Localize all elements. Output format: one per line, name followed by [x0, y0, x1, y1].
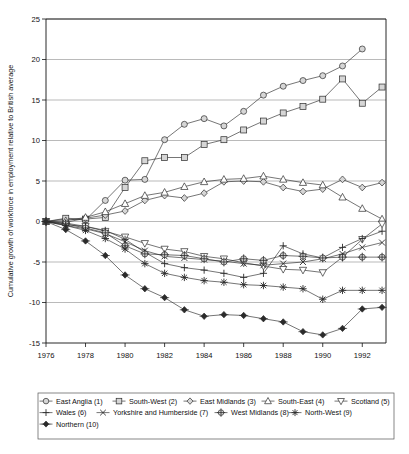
- x-tick-label-1984: 1984: [196, 351, 213, 360]
- data-point-marker: [181, 195, 187, 202]
- data-point-marker: [359, 205, 366, 212]
- x-tick-label-1992: 1992: [354, 351, 371, 360]
- data-point-marker: [181, 155, 187, 161]
- data-point-marker: [260, 118, 266, 124]
- data-point-marker: [162, 137, 168, 143]
- data-point-marker: [102, 208, 109, 215]
- data-point-marker: [280, 184, 286, 191]
- data-point-marker: [201, 190, 207, 197]
- y-axis-label: Cumulative growth of workforce in employ…: [6, 65, 15, 298]
- data-point-marker: [241, 127, 247, 133]
- series-path: [46, 222, 382, 278]
- line-chart: Cumulative growth of workforce in employ…: [0, 0, 409, 454]
- data-point-marker: [181, 121, 187, 127]
- data-point-marker: [221, 137, 227, 143]
- data-point-marker: [260, 178, 266, 185]
- y-tick-label--10: -10: [29, 298, 40, 307]
- legend-item-label: Northern (10): [56, 420, 99, 429]
- series-path: [46, 179, 382, 222]
- legend-item-7[interactable]: Yorkshire and Humberside (7): [97, 408, 209, 417]
- legend-item-label: South-West (2): [129, 397, 177, 406]
- x-tick-label-1980: 1980: [117, 351, 134, 360]
- data-point-marker: [379, 179, 385, 186]
- data-point-marker: [142, 176, 148, 182]
- legend-item-label: Scotland (5): [351, 397, 390, 406]
- legend-item-8[interactable]: West Midlands (8): [215, 408, 289, 417]
- legend-marker-icon: [43, 398, 49, 404]
- y-tick-label-20: 20: [32, 55, 40, 64]
- legend-item-label: Yorkshire and Humberside (7): [113, 408, 208, 417]
- legend-marker-icon: [265, 398, 272, 404]
- series-path: [46, 222, 382, 273]
- data-point-marker: [260, 172, 267, 179]
- data-point-marker: [300, 188, 306, 195]
- x-tick-label-1982: 1982: [156, 351, 173, 360]
- gridlines: [46, 19, 386, 303]
- data-point-marker: [241, 108, 247, 114]
- series-4: [42, 172, 385, 224]
- data-point-marker: [121, 200, 128, 207]
- legend-item-6[interactable]: Wales (6): [40, 408, 87, 417]
- x-tick-label-1986: 1986: [235, 351, 252, 360]
- legend-item-2[interactable]: South-West (2): [113, 397, 178, 406]
- data-point-marker: [280, 110, 286, 116]
- data-point-marker: [340, 76, 346, 82]
- series-path: [46, 176, 382, 221]
- legend: East Anglia (1)South-West (2)East Midlan…: [38, 393, 394, 439]
- data-point-marker: [379, 84, 385, 90]
- data-point-marker: [142, 158, 148, 164]
- y-tick-label--5: -5: [33, 258, 40, 267]
- data-point-marker: [201, 116, 207, 122]
- data-point-marker: [201, 142, 207, 148]
- legend-item-label: North-West (9): [305, 408, 352, 417]
- series-path: [46, 222, 382, 263]
- data-point-marker: [220, 176, 227, 183]
- series-path: [46, 222, 382, 266]
- data-point-marker: [339, 193, 346, 200]
- legend-item-10[interactable]: Northern (10): [40, 420, 99, 429]
- y-tick-label-5: 5: [36, 177, 40, 186]
- series-2: [43, 76, 385, 225]
- data-point-marker: [319, 270, 326, 277]
- legend-item-3[interactable]: East Midlands (3): [184, 397, 256, 406]
- data-point-marker: [122, 184, 128, 190]
- data-point-marker: [102, 197, 108, 203]
- series-path: [46, 222, 382, 335]
- series-lines: [41, 46, 386, 338]
- data-point-marker: [122, 208, 128, 215]
- y-tick-label-10: 10: [32, 136, 40, 145]
- legend-item-label: South-East (4): [278, 397, 324, 406]
- legend-item-1[interactable]: East Anglia (1): [40, 397, 103, 406]
- series-path: [46, 79, 382, 222]
- series-5: [42, 219, 385, 277]
- x-tick-label-1988: 1988: [275, 351, 292, 360]
- data-point-marker: [359, 100, 365, 106]
- legend-item-label: East Anglia (1): [56, 397, 103, 406]
- legend-item-4[interactable]: South-East (4): [262, 397, 325, 406]
- series-10: [41, 218, 386, 338]
- data-point-marker: [320, 73, 326, 79]
- data-point-marker: [359, 184, 365, 191]
- y-tick-label--15: -15: [29, 339, 40, 348]
- data-point-marker: [280, 83, 286, 89]
- legend-marker-icon: [338, 399, 345, 405]
- y-tick-label-25: 25: [32, 15, 40, 24]
- axes: [42, 19, 386, 347]
- series-8: [42, 217, 387, 266]
- series-1: [43, 46, 365, 225]
- data-point-marker: [300, 78, 306, 84]
- data-point-marker: [260, 92, 266, 98]
- legend-item-label: East Midlands (3): [200, 397, 256, 406]
- data-point-marker: [340, 63, 346, 69]
- y-tick-label-0: 0: [36, 217, 40, 226]
- legend-marker-icon: [116, 398, 122, 404]
- data-point-marker: [320, 96, 326, 102]
- y-tick-label-15: 15: [32, 96, 40, 105]
- x-tick-label-1990: 1990: [314, 351, 331, 360]
- series-7: [43, 219, 385, 269]
- data-point-marker: [162, 155, 168, 161]
- legend-item-5[interactable]: Scotland (5): [335, 397, 390, 406]
- legend-item-9[interactable]: North-West (9): [289, 408, 353, 417]
- legend-item-label: Wales (6): [56, 408, 86, 417]
- data-point-marker: [221, 123, 227, 129]
